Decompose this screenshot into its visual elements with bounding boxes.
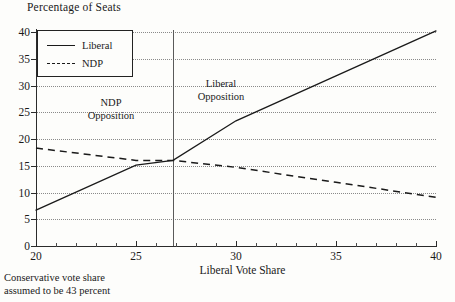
footnote-line-2: assumed to be 43 percent <box>4 285 110 298</box>
legend-label-liberal: Liberal <box>82 38 112 54</box>
legend-swatch-dashed-icon <box>47 63 75 66</box>
annotation-liberal-line2: Opposition <box>186 90 256 103</box>
legend-swatch-solid-icon <box>47 45 75 48</box>
chart-figure: Percentage of Seats 40 35 30 25 20 15 10… <box>0 0 455 302</box>
annotation-ndp-line2: Opposition <box>78 109 144 122</box>
footnote-line-1: Conservative vote share <box>4 272 110 285</box>
legend-item-ndp: NDP <box>38 56 134 72</box>
chart-legend: Liberal NDP <box>37 30 133 77</box>
annotation-liberal-line1: Liberal <box>186 77 256 90</box>
annotation-ndp-line1: NDP <box>78 96 144 109</box>
legend-item-liberal: Liberal <box>38 38 134 54</box>
legend-label-ndp: NDP <box>82 56 103 72</box>
annotation-liberal-opposition: Liberal Opposition <box>186 77 256 103</box>
annotation-ndp-opposition: NDP Opposition <box>78 96 144 122</box>
series-line-ndp <box>36 148 436 197</box>
chart-footnote: Conservative vote share assumed to be 43… <box>4 272 110 297</box>
